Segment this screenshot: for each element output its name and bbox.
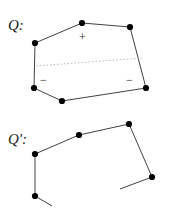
vertex-dot <box>76 132 82 138</box>
polygon-diagram-svg <box>0 0 174 218</box>
shape-label-q-prime: Q': <box>8 132 27 147</box>
vertex-dot <box>127 24 133 30</box>
vertex-dot <box>126 121 132 127</box>
polyline-qprime-outline <box>35 124 152 177</box>
vertex-dot <box>149 174 155 180</box>
vertex-dot <box>31 85 37 91</box>
sign-plus-annotation: + <box>79 31 86 43</box>
polyline-qprime-stubs <box>35 154 152 206</box>
vertex-dot <box>79 20 85 26</box>
sign-minus-left-annotation: − <box>40 74 47 86</box>
polygon-q-dashed-chord <box>36 58 142 66</box>
vertex-dot <box>59 98 65 104</box>
sign-minus-right-annotation: − <box>126 74 133 86</box>
stub-segment <box>120 177 152 189</box>
polygon-q-outline <box>34 23 146 101</box>
shape-label-q: Q: <box>8 18 24 33</box>
vertex-dot <box>143 85 149 91</box>
vertex-dot <box>32 40 38 46</box>
vertex-dot <box>32 193 38 199</box>
figure-canvas: Q: Q': + − − <box>0 0 174 218</box>
polyline-qprime-vertices <box>32 121 155 199</box>
vertex-dot <box>32 151 38 157</box>
